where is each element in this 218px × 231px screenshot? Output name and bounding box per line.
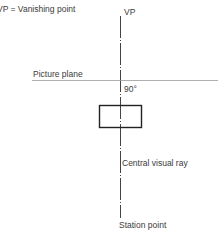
diagram-canvas — [0, 0, 218, 231]
angle-label: 90° — [124, 85, 137, 94]
central-visual-ray-label: Central visual ray — [122, 159, 188, 168]
vp-label: VP — [124, 8, 135, 17]
picture-plane-label: Picture plane — [33, 70, 83, 79]
legend-text: VP = Vanishing point — [0, 5, 75, 14]
station-point-label: Station point — [119, 221, 166, 230]
